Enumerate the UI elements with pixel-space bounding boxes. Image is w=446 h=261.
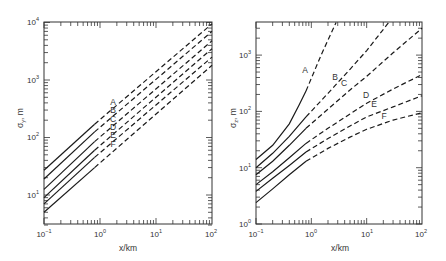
curve-D <box>256 75 422 185</box>
curve-C <box>256 28 422 175</box>
curve-label-B: B <box>332 72 338 82</box>
right-curve-labels: ABCDEF <box>302 65 386 121</box>
curve-label-F: F <box>110 139 115 149</box>
right-axis-ticks <box>256 22 422 224</box>
left-xtick-3: 102 <box>205 228 217 239</box>
curve-B <box>44 31 212 179</box>
right-xtick-0: 10−1 <box>248 228 263 239</box>
curve-E <box>44 57 212 204</box>
left-xtick-1: 100 <box>94 228 106 239</box>
left-ytick-0: 101 <box>27 189 39 200</box>
curve-E <box>256 96 422 192</box>
curve-label-F: F <box>381 111 386 121</box>
right-ytick-3: 103 <box>239 49 251 60</box>
right-xtick-3: 102 <box>415 228 427 239</box>
curve-label-E: E <box>371 99 377 109</box>
right-ytick-0: 100 <box>239 218 251 229</box>
right-ytick-2: 102 <box>239 105 251 116</box>
right-curves <box>256 23 422 203</box>
right-y-axis-title: σz, m <box>228 108 239 128</box>
curve-label-D: D <box>363 90 369 100</box>
right-x-axis-title: x/km <box>331 243 349 253</box>
figure: ABCDEF 10−1 100 101 102 101 102 103 104 … <box>0 0 446 261</box>
left-x-axis-title: x/km <box>119 243 137 253</box>
right-xtick-2: 101 <box>361 228 373 239</box>
right-plot-frame <box>256 22 422 224</box>
curve-A <box>44 24 212 170</box>
curve-C <box>44 41 212 190</box>
left-xtick-0: 10−1 <box>36 228 51 239</box>
left-curves <box>44 24 212 213</box>
curve-D <box>44 49 212 198</box>
left-y-axis-title: σy, m <box>15 108 26 128</box>
left-ytick-3: 104 <box>27 16 39 27</box>
right-ytick-1: 101 <box>239 162 251 173</box>
left-chart-panel: ABCDEF 10−1 100 101 102 101 102 103 104 … <box>15 16 217 253</box>
right-chart-panel: ABCDEF 10−1 100 101 102 100 101 102 103 … <box>228 22 427 253</box>
curve-label-A: A <box>302 65 308 75</box>
left-ytick-1: 102 <box>27 131 39 142</box>
curve-F <box>256 113 422 203</box>
curve-label-C: C <box>341 78 347 88</box>
left-curve-labels: ABCDEF <box>110 97 116 149</box>
curve-F <box>44 65 212 212</box>
left-xtick-2: 101 <box>150 228 162 239</box>
left-ytick-2: 103 <box>27 74 39 85</box>
right-xtick-1: 100 <box>305 228 317 239</box>
